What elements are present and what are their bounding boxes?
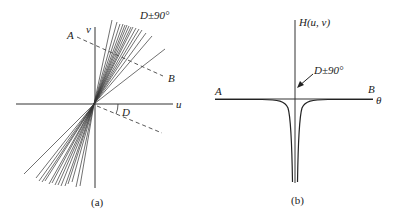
caption-a: (a) — [91, 196, 104, 209]
point-a-label: A — [66, 29, 74, 41]
angle-arc — [116, 104, 118, 114]
fan-line — [45, 104, 94, 181]
notch-curve-left — [215, 100, 293, 183]
d-pm-90-annotation-b: D±90° — [313, 64, 344, 76]
panel-a: v u A B D D±90° (a) — [16, 9, 182, 209]
theta-axis-label: θ — [376, 94, 382, 106]
caption-b: (b) — [291, 194, 304, 207]
fan-line — [94, 30, 142, 104]
fan-line — [52, 104, 94, 183]
fan-line — [36, 104, 94, 178]
fan-line — [94, 29, 139, 104]
point-b-label: B — [168, 72, 175, 84]
h-axis-label: H(u, v) — [298, 16, 330, 29]
panel-b: H(u, v) θ A B D±90° (b) — [214, 16, 382, 207]
angle-d-label: D — [121, 106, 130, 118]
u-axis-label: u — [176, 98, 182, 110]
point-b-label-b: B — [368, 83, 375, 95]
notch-curve-right — [298, 100, 374, 183]
figure-canvas: v u A B D D±90° (a) H(u, v) θ A B D±90° … — [0, 0, 399, 219]
point-a-label-b: A — [214, 85, 222, 97]
fan-line — [58, 104, 94, 185]
v-axis-label: v — [86, 23, 91, 35]
fan-line — [61, 104, 94, 186]
d-pm-90-annotation: D±90° — [139, 9, 170, 21]
